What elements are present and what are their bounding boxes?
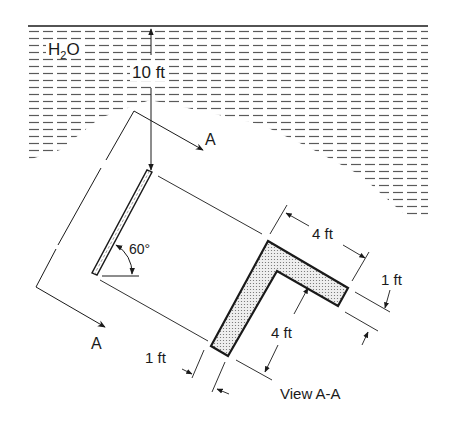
fluid-label-h: H <box>48 40 60 59</box>
fluid-label-subscript: 2 <box>60 49 66 61</box>
dimension-label-vertical-thickness: 1 ft <box>145 350 166 365</box>
dimension-label-top-thickness: 1 ft <box>381 272 402 287</box>
angle-label: 60° <box>129 242 150 256</box>
section-marker-top: A <box>205 132 216 148</box>
section-marker-bottom: A <box>91 336 102 352</box>
gate-plate <box>92 170 152 275</box>
fluid-label: H2O <box>46 41 82 58</box>
dimension-top-thickness <box>345 290 390 345</box>
depth-label: 10 ft <box>130 64 167 81</box>
dimension-vertical-thickness <box>182 350 229 394</box>
gate-diagram <box>0 0 458 434</box>
view-caption: View A-A <box>280 386 341 401</box>
dimension-label-top-leg: 4 ft <box>312 226 333 241</box>
fluid-label-o: O <box>66 40 79 59</box>
dimension-label-vertical-leg: 4 ft <box>271 325 292 340</box>
water-region <box>28 28 428 218</box>
